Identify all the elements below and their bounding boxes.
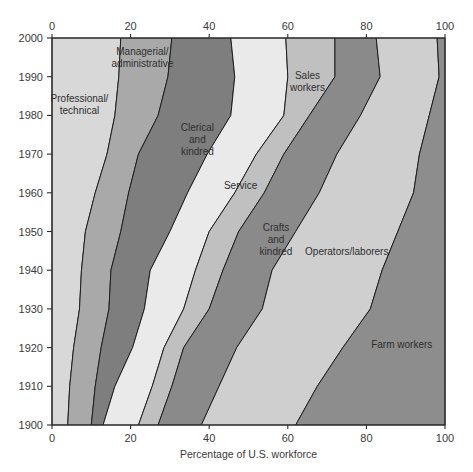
band-label: Professional/ [51, 93, 109, 104]
y-tick-label: 1940 [19, 264, 43, 276]
band-label: Sales [295, 70, 320, 81]
y-tick-label: 2000 [19, 32, 43, 44]
x-tick-label-top: 40 [203, 20, 215, 32]
x-tick-label-top: 100 [436, 20, 454, 32]
y-tick-label: 1930 [19, 303, 43, 315]
band-label: and [268, 234, 285, 245]
x-tick-label-bottom: 80 [360, 432, 372, 444]
band-label: administrative [112, 58, 174, 69]
x-tick-label-bottom: 20 [124, 432, 136, 444]
x-axis-title: Percentage of U.S. workforce [180, 448, 317, 460]
x-axis-bottom: 020406080100 [49, 425, 454, 444]
x-tick-label-top: 80 [360, 20, 372, 32]
x-axis-top: 020406080100 [49, 20, 454, 38]
y-tick-label: 1900 [19, 419, 43, 431]
x-tick-label-bottom: 0 [49, 432, 55, 444]
band-label: and [189, 134, 206, 145]
y-tick-label: 1970 [19, 148, 43, 160]
x-tick-label-top: 20 [124, 20, 136, 32]
y-tick-label: 1960 [19, 187, 43, 199]
y-tick-label: 1910 [19, 380, 43, 392]
x-tick-label-bottom: 40 [203, 432, 215, 444]
band-label: Clerical [181, 122, 214, 133]
band-label: Farm workers [371, 339, 432, 350]
y-axis: 1900191019201930194019501960197019801990… [19, 32, 52, 431]
x-tick-label-top: 0 [49, 20, 55, 32]
band-label: Service [224, 180, 258, 191]
y-tick-label: 1980 [19, 109, 43, 121]
band-label: Managerial/ [116, 46, 168, 57]
chart-container: 0204060801000204060801001900191019201930… [0, 0, 473, 472]
band-label: technical [60, 105, 99, 116]
x-tick-label-top: 60 [282, 20, 294, 32]
workforce-stacked-area-chart: 0204060801000204060801001900191019201930… [0, 0, 473, 472]
bands-group [52, 38, 445, 425]
band-label: kindred [181, 146, 214, 157]
band-label: kindred [260, 246, 293, 257]
x-tick-label-bottom: 60 [282, 432, 294, 444]
band-label: Crafts [263, 222, 290, 233]
band-label: workers [289, 82, 325, 93]
y-tick-label: 1990 [19, 71, 43, 83]
x-tick-label-bottom: 100 [436, 432, 454, 444]
band-label: Operators/laborers [305, 246, 388, 257]
y-tick-label: 1920 [19, 342, 43, 354]
y-tick-label: 1950 [19, 226, 43, 238]
